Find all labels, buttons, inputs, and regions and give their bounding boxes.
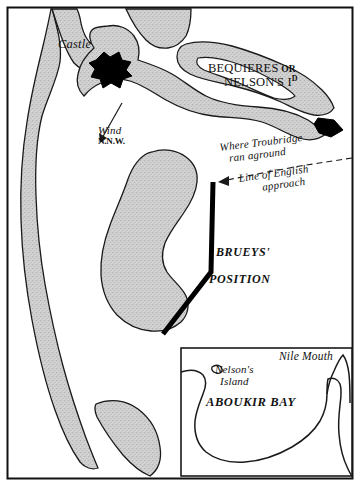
label-nelsons-island-line2: Island — [215, 376, 254, 388]
label-wind: Wind N.N.W. — [98, 125, 125, 146]
label-wind-direction: N.N.W. — [98, 137, 125, 146]
label-aboukir-bay: ABOUKIR BAY — [206, 396, 296, 409]
label-wind-text: Wind — [98, 124, 121, 136]
historical-map: Castle Wind N.N.W. BEQUIERES OR NELSON'S… — [0, 0, 360, 487]
label-bequieres-island: BEQUIERES OR NELSON'S ID — [208, 62, 298, 89]
map-canvas — [0, 0, 360, 487]
label-brueys: BRUEYS' — [216, 246, 270, 259]
inset-map — [181, 348, 352, 476]
label-island-or: OR — [281, 64, 296, 74]
label-nelsons-island-line1: Nelson's — [215, 363, 254, 375]
label-nile-mouth: Nile Mouth — [279, 350, 333, 362]
label-island-abbrev-sup: D — [292, 74, 298, 83]
label-island-name: BEQUIERES — [208, 61, 279, 75]
label-castle: Castle — [58, 38, 91, 51]
inset-border — [181, 348, 352, 476]
label-island-nelsons: NELSON'S — [224, 75, 284, 89]
label-nelsons-island: Nelson's Island — [215, 364, 254, 387]
label-position: POSITION — [209, 273, 270, 286]
